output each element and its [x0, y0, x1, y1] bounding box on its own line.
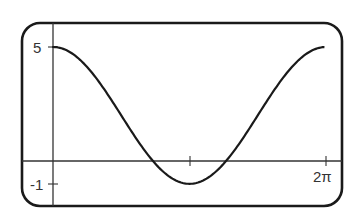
chart: 5 -1 2π: [0, 0, 355, 209]
cosine-curve: [53, 47, 324, 184]
chart-frame: [22, 23, 342, 206]
y-tick-label-max: 5: [33, 39, 41, 56]
x-tick-label-max: 2π: [313, 168, 332, 185]
y-tick-label-min: -1: [30, 176, 43, 193]
